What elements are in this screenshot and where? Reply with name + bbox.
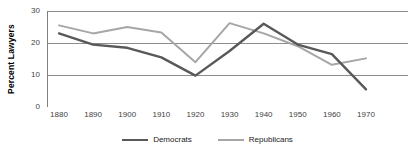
x-tick-label: 1940 (255, 111, 273, 119)
axis-lines (47, 11, 48, 107)
chart-legend: DemocratsRepublicans (0, 136, 415, 144)
legend-item-democrats[interactable]: Democrats (122, 136, 192, 144)
x-tick-label: 1900 (118, 111, 136, 119)
series-line-republicans (59, 23, 366, 65)
legend-swatch-democrats (122, 139, 148, 142)
x-tick-label: 1890 (84, 111, 102, 119)
legend-label: Democrats (153, 136, 192, 144)
x-tick-label: 1960 (323, 111, 341, 119)
lawyers-line-chart: Percent Lawyers 0102030 1880189019001910… (0, 0, 415, 162)
legend-item-republicans[interactable]: Republicans (218, 136, 293, 144)
y-axis-title: Percent Lawyers (0, 0, 22, 118)
x-axis-tick-labels: 1880189019001910192019301940195019601970 (47, 111, 408, 127)
plot-svg (47, 11, 408, 107)
legend-label: Republicans (249, 136, 293, 144)
y-tick-label: 30 (19, 7, 40, 15)
plot-area (47, 11, 408, 107)
y-tick-label: 0 (19, 103, 40, 111)
y-tick-label: 20 (19, 39, 40, 47)
x-tick-label: 1950 (289, 111, 307, 119)
x-tick-label: 1880 (50, 111, 68, 119)
x-tick-label: 1970 (357, 111, 375, 119)
x-tick-label: 1930 (221, 111, 239, 119)
series-lines (59, 23, 366, 89)
x-tick-label: 1920 (187, 111, 205, 119)
legend-swatch-republicans (218, 139, 244, 142)
y-axis-title-label: Percent Lawyers (6, 24, 16, 94)
y-tick-label: 10 (19, 71, 40, 79)
series-line-democrats (59, 24, 366, 90)
x-tick-label: 1910 (152, 111, 170, 119)
